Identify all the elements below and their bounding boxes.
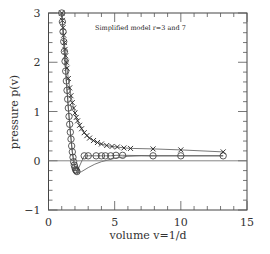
axis-ticks <box>49 13 248 210</box>
cross-marker <box>99 142 104 147</box>
y-tick-label: 3 <box>34 7 41 20</box>
series-line <box>62 13 224 172</box>
x-axis-label: volume v=1/d <box>108 229 186 242</box>
cross-marker <box>72 110 77 115</box>
y-tick-label: 0 <box>34 155 41 168</box>
tick-labels: 051015−10123 <box>24 7 254 229</box>
chart: 051015−10123 Simplified model r=3 and 7 … <box>0 0 270 254</box>
x-tick-label: 0 <box>45 216 52 229</box>
x-tick-label: 10 <box>174 216 188 229</box>
series-line <box>62 13 224 173</box>
y-tick-label: 1 <box>34 106 41 119</box>
y-axis-label: pressure p(v) <box>8 75 21 149</box>
y-tick-label: 2 <box>34 56 41 69</box>
plot-frame <box>49 13 248 210</box>
y-tick-label: −1 <box>24 204 40 217</box>
chart-annotation: Simplified model r=3 and 7 <box>95 24 186 32</box>
plot-border <box>49 13 248 210</box>
x-tick-label: 5 <box>111 216 118 229</box>
data-series <box>49 10 248 175</box>
x-tick-label: 15 <box>240 216 254 229</box>
